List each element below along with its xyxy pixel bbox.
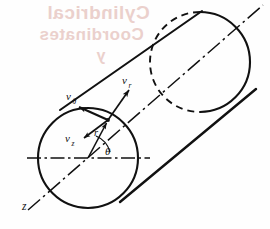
label-v-z-subscript: z: [71, 139, 75, 148]
label-v-r: v r: [122, 74, 132, 90]
velocity-vector-v-r: [108, 90, 129, 120]
label-v-r-subscript: r: [129, 81, 132, 90]
label-axis-z: z: [21, 200, 27, 212]
label-v-theta-base: v: [66, 90, 71, 102]
cylinder-upper-edge: [60, 11, 202, 110]
label-angle-theta: θ: [105, 145, 111, 157]
surface-point-marker: [106, 118, 110, 122]
label-v-theta-subscript: θ: [73, 97, 77, 106]
label-v-r-base: v: [122, 74, 127, 86]
figure-root: Cylindrical Coordinates y: [0, 0, 270, 229]
cylinder-lower-edge: [120, 89, 256, 202]
cylinder-diagram: v θ v r v z r θ z: [0, 0, 270, 229]
label-v-z-base: v: [65, 132, 70, 144]
far-circle-visible-arc: [200, 12, 250, 112]
label-v-z: v z: [65, 132, 75, 148]
